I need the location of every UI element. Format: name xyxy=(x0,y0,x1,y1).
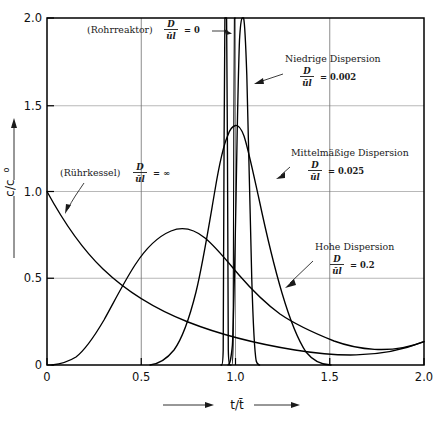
annotation-niedrige-denominator: ūl xyxy=(302,78,312,88)
annotation-ruehrkessel-numerator: D xyxy=(135,162,144,172)
annotation-mittelmaessige-denominator: ūl xyxy=(310,172,320,182)
y-tick-label-0.5: 0.5 xyxy=(24,271,42,285)
annotation-ruehrkessel-denominator: ūl xyxy=(135,174,145,184)
y-axis-title-group: c/c o xyxy=(2,118,17,258)
x-tick-labels: 0 0.5 1.0 1.5 2.0 xyxy=(43,370,433,384)
annotation-ruehrkessel-label: (Rührkessel) xyxy=(60,167,120,178)
x-tick-label-1.0: 1.0 xyxy=(226,370,244,384)
x-axis-title-group: t/t̄ xyxy=(163,398,300,412)
y-tick-label-1.0: 1.0 xyxy=(24,185,42,199)
y-tick-label-0: 0 xyxy=(35,358,42,372)
annotation-hohe-value: = 0.2 xyxy=(350,260,375,270)
chart-figure: 2.0 1.5 1.0 0.5 0 0 0.5 1.0 1.5 2.0 c/c … xyxy=(0,0,438,423)
y-axis-arrow-head xyxy=(11,118,17,128)
annotation-mittelmaessige-value: = 0.025 xyxy=(328,166,364,176)
x-tick-label-0: 0 xyxy=(43,370,50,384)
y-tick-label-1.5: 1.5 xyxy=(24,99,42,113)
x-tick-label-2.0: 2.0 xyxy=(415,370,433,384)
x-axis-arrow-head-left xyxy=(205,402,214,408)
y-tick-label-2.0: 2.0 xyxy=(24,11,42,25)
annotation-niedrige-label: Niedrige Dispersion xyxy=(285,53,381,64)
x-tick-label-0.5: 0.5 xyxy=(132,370,150,384)
y-tick-labels: 2.0 1.5 1.0 0.5 0 xyxy=(24,11,42,372)
annotation-mittelmaessige-numerator: D xyxy=(310,160,319,170)
annotation-niedrige-numerator: D xyxy=(302,66,311,76)
x-axis-arrow-head-right xyxy=(291,402,300,408)
dispersion-rtd-chart: 2.0 1.5 1.0 0.5 0 0 0.5 1.0 1.5 2.0 c/c … xyxy=(0,0,438,423)
y-axis-label: c/c xyxy=(3,179,17,196)
x-tick-label-1.5: 1.5 xyxy=(321,370,339,384)
annotation-rohrreaktor-numerator: D xyxy=(166,19,175,29)
x-axis-label: t/t̄ xyxy=(230,398,244,412)
annotation-ruehrkessel-value: = ∞ xyxy=(153,168,170,178)
annotation-rohrreaktor-denominator: ūl xyxy=(166,31,176,41)
annotation-hohe-denominator: ūl xyxy=(332,266,342,276)
annotation-mittelmaessige-label: Mittelmäßige Dispersion xyxy=(291,147,409,158)
annotation-rohrreaktor-label: (Rohrreaktor) xyxy=(87,24,153,35)
annotation-niedrige-value: = 0.002 xyxy=(320,72,356,82)
annotation-hohe-numerator: D xyxy=(332,254,341,264)
y-axis-label-subscript: o xyxy=(2,167,11,172)
annotation-rohrreaktor-value: = 0 xyxy=(184,25,200,35)
annotation-hohe-label: Hohe Dispersion xyxy=(315,241,394,252)
